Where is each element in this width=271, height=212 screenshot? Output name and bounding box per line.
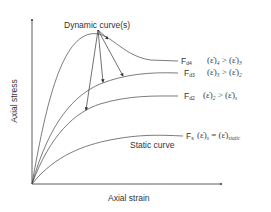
condition-fd4: (ε̇)4 > (ε̇)3 — [207, 55, 242, 66]
curve-fd4 — [32, 34, 178, 184]
static-curve-label: Static curve — [130, 140, 174, 150]
axes — [31, 19, 222, 185]
label-fd2: Fd2 — [184, 91, 195, 101]
condition-fd2: (ε̇)2 > (ε̇)s — [203, 90, 237, 101]
dynamic-curves-annotation: Dynamic curve(s) — [64, 20, 130, 30]
label-fs: Fs — [186, 131, 194, 141]
condition-fs: (ε̇)s = (ε̇)static — [197, 130, 240, 141]
curve-fd3 — [32, 73, 178, 184]
condition-fd3: (ε̇)3 > (ε̇)2 — [207, 67, 242, 78]
dynamic-arrows — [86, 30, 123, 110]
label-fd3: Fd3 — [184, 68, 195, 78]
label-fd4: Fd4 — [181, 56, 192, 66]
x-axis-label: Axial strain — [108, 193, 150, 203]
diagram-canvas — [0, 0, 271, 212]
y-axis-label: Axial stress — [9, 79, 19, 122]
